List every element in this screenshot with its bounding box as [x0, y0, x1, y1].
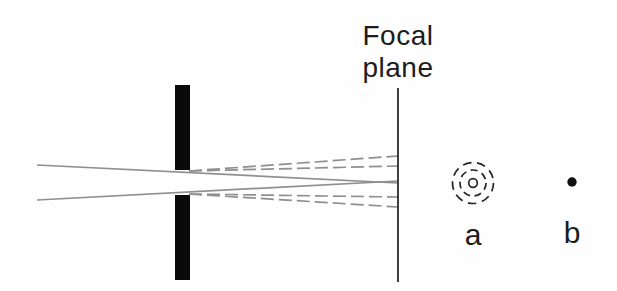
diffraction-ray-lower-outer [189, 194, 398, 207]
diffraction-ray-upper-inner [189, 166, 398, 171]
diffraction-ray-lower-inner [189, 194, 398, 197]
incoming-ray-lower [37, 181, 398, 200]
aperture-screen-bottom [175, 195, 190, 280]
pattern-b-label: b [542, 216, 602, 250]
focal-plane-label-line2: plane [356, 52, 440, 84]
airy-ring-outer [453, 163, 494, 204]
focal-plane-label-line1: Focal [356, 20, 440, 52]
focal-plane-label: Focal plane [356, 20, 440, 84]
optics-svg [0, 0, 617, 291]
optics-diagram: Focal plane a b [0, 0, 617, 291]
airy-ring-inner [469, 179, 478, 188]
point-image-dot [567, 177, 576, 186]
airy-ring-middle [460, 170, 486, 196]
aperture-screen-top [175, 85, 190, 170]
pattern-a-label: a [443, 218, 503, 252]
diffraction-ray-upper-outer [189, 156, 398, 171]
